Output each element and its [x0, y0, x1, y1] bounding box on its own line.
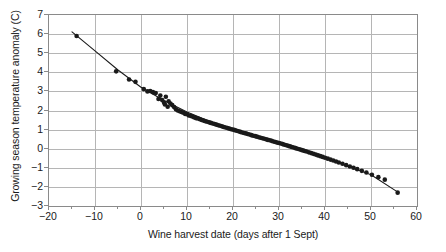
chart-figure: Growing season temperature anomaly (C) W…	[0, 0, 446, 252]
y-tick-label: 6	[13, 28, 43, 38]
x-tick-label: 30	[258, 211, 298, 221]
x-minor-tick-mark	[71, 206, 72, 209]
y-tick-mark	[44, 33, 48, 34]
y-tick-mark	[44, 129, 48, 130]
x-tick-mark	[186, 206, 187, 210]
y-tick-label: 3	[13, 85, 43, 95]
x-tick-label: 0	[120, 211, 160, 221]
y-tick-mark	[44, 148, 48, 149]
x-tick-mark	[140, 206, 141, 210]
x-minor-tick-mark	[393, 206, 394, 209]
x-tick-mark	[94, 206, 95, 210]
y-tick-mark	[44, 90, 48, 91]
y-tick-label: 0	[13, 143, 43, 153]
x-tick-label: −10	[74, 211, 114, 221]
x-minor-tick-mark	[163, 206, 164, 209]
x-minor-tick-mark	[255, 206, 256, 209]
x-tick-mark	[370, 206, 371, 210]
y-tick-mark	[44, 186, 48, 187]
y-tick-label: 5	[13, 47, 43, 57]
y-tick-label: −1	[13, 162, 43, 172]
y-tick-label: 1	[13, 124, 43, 134]
y-tick-mark	[44, 110, 48, 111]
x-minor-tick-mark	[117, 206, 118, 209]
y-tick-label: 7	[13, 9, 43, 19]
x-tick-label: 20	[212, 211, 252, 221]
x-tick-mark	[48, 206, 49, 210]
x-tick-mark	[232, 206, 233, 210]
x-axis-title: Wine harvest date (days after 1 Sept)	[48, 228, 418, 240]
x-minor-tick-mark	[347, 206, 348, 209]
x-tick-label: −20	[28, 211, 68, 221]
y-tick-mark	[44, 14, 48, 15]
plot-canvas	[49, 15, 417, 206]
data-points	[74, 34, 400, 195]
x-tick-label: 60	[396, 211, 436, 221]
y-tick-mark	[44, 52, 48, 53]
x-minor-tick-mark	[209, 206, 210, 209]
x-tick-label: 40	[304, 211, 344, 221]
x-tick-mark	[416, 206, 417, 210]
x-minor-tick-mark	[301, 206, 302, 209]
y-tick-mark	[44, 167, 48, 168]
x-tick-mark	[278, 206, 279, 210]
y-tick-label: −2	[13, 181, 43, 191]
gridlines	[49, 15, 417, 206]
y-tick-label: 2	[13, 105, 43, 115]
x-tick-label: 50	[350, 211, 390, 221]
y-tick-label: 4	[13, 66, 43, 76]
x-tick-mark	[324, 206, 325, 210]
x-tick-label: 10	[166, 211, 206, 221]
y-tick-label: −3	[13, 200, 43, 210]
y-tick-mark	[44, 71, 48, 72]
plot-area	[48, 14, 418, 207]
